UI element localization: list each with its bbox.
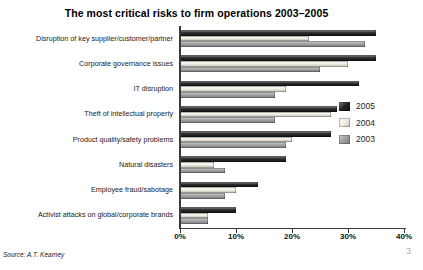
bar-2003	[180, 67, 320, 73]
category-label: Theft of intellectual property	[0, 110, 180, 118]
chart-title: The most critical risks to firm operatio…	[0, 7, 423, 19]
legend: 200520042003	[339, 101, 375, 151]
page-number: 3	[406, 246, 411, 256]
legend-item: 2004	[339, 118, 375, 128]
category-label: IT disruption	[0, 85, 180, 93]
bar-2003	[180, 168, 225, 174]
bar-2003	[180, 92, 275, 98]
slide: The most critical risks to firm operatio…	[0, 0, 423, 270]
bar-2003	[180, 41, 365, 47]
category-row: IT disruption	[0, 77, 404, 102]
source-note: Source: A.T. Kearney	[3, 251, 64, 258]
category-label: Activist attacks on global/corporate bra…	[0, 211, 180, 219]
category-row: Natural disasters	[0, 152, 404, 177]
legend-item: 2003	[339, 134, 375, 144]
bar-2003	[180, 117, 275, 123]
x-axis-tick-label: 0%	[164, 232, 196, 241]
x-axis-tick-label: 30%	[332, 232, 364, 241]
legend-label: 2004	[356, 118, 375, 128]
category-label: Natural disasters	[0, 161, 180, 169]
bar-group	[180, 30, 404, 47]
bar-group	[180, 156, 404, 173]
legend-swatch-2003	[339, 135, 350, 144]
bar-group	[180, 55, 404, 72]
category-label: Disruption of key supplier/customer/part…	[0, 35, 180, 43]
bar-2003	[180, 142, 286, 148]
x-axis-tick-label: 20%	[276, 232, 308, 241]
legend-swatch-2005	[339, 102, 350, 111]
legend-item: 2005	[339, 101, 375, 111]
bar-2003	[180, 193, 225, 199]
category-label: Product quality/safety problems	[0, 136, 180, 144]
category-label: Corporate governance issues	[0, 60, 180, 68]
y-axis-line	[179, 26, 181, 228]
category-row: Employee fraud/sabotage	[0, 178, 404, 203]
legend-swatch-2004	[339, 118, 350, 127]
x-axis-tick-label: 10%	[220, 232, 252, 241]
category-row: Corporate governance issues	[0, 51, 404, 76]
category-label: Employee fraud/sabotage	[0, 186, 180, 194]
bar-2003	[180, 218, 208, 224]
legend-label: 2005	[356, 101, 375, 111]
category-row: Activist attacks on global/corporate bra…	[0, 203, 404, 228]
category-row: Disruption of key supplier/customer/part…	[0, 26, 404, 51]
legend-label: 2003	[356, 134, 375, 144]
bar-group	[180, 207, 404, 224]
bar-group	[180, 81, 404, 98]
bar-group	[180, 182, 404, 199]
x-axis-tick-label: 40%	[388, 232, 420, 241]
